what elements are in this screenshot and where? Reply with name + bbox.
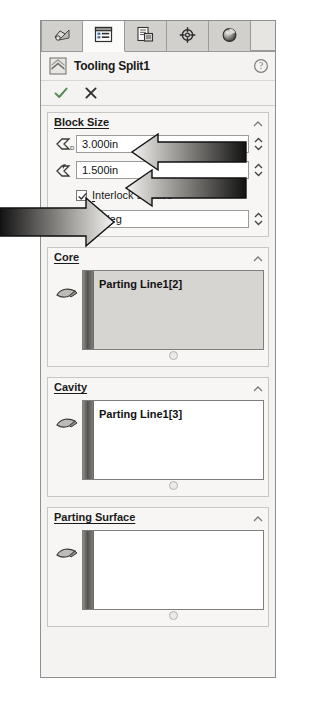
group-body-parting-surface [48, 526, 268, 626]
configuration-icon [136, 26, 155, 46]
group-core: Core Parting L [47, 247, 269, 367]
feature-tree-icon [52, 26, 72, 47]
cavity-selection-gutter [83, 401, 94, 479]
resize-dot-icon [169, 611, 178, 620]
block-depth-direction2-input[interactable]: 1.500in [76, 161, 249, 179]
parting-surface-selection-wrapper [82, 530, 264, 620]
cavity-selection-wrapper: Parting Line1[3] [82, 400, 264, 490]
core-selection-box[interactable]: Parting Line1[2] [82, 270, 264, 350]
parting-surface-selection-list[interactable] [94, 531, 263, 609]
depth-d2-icon [52, 160, 76, 180]
group-body-core: Parting Line1[2] [48, 266, 268, 366]
group-title-cavity: Cavity [54, 381, 252, 393]
row-cavity-selection: Parting Line1[3] [52, 398, 264, 490]
surface-face-icon [52, 270, 82, 302]
group-body-cavity: Parting Line1[3] [48, 396, 268, 496]
row-interlock-draft-angle: 3.00deg [52, 208, 264, 230]
chevron-up-icon[interactable] [252, 511, 264, 523]
block-depth-direction1-input[interactable]: 3.000in [76, 135, 249, 153]
depth-d1-icon: D [52, 134, 76, 154]
row-parting-surface-selection [52, 528, 264, 620]
group-block-size: Block Size D 3.000in [47, 112, 269, 237]
group-title-core: Core [54, 251, 252, 263]
list-item[interactable]: Parting Line1[3] [99, 408, 182, 420]
help-icon[interactable]: ? [253, 58, 269, 74]
tab-strip-filler [251, 21, 275, 51]
group-header-core[interactable]: Core [48, 248, 268, 266]
block-depth-direction1-stepper[interactable] [252, 136, 264, 152]
cavity-selection-box[interactable]: Parting Line1[3] [82, 400, 264, 480]
row-interlock-surface[interactable]: Interlock surface [52, 185, 264, 205]
chevron-up-icon[interactable] [252, 251, 264, 263]
surface-face-icon [52, 530, 82, 562]
parting-surface-selection-gutter [83, 531, 94, 609]
group-header-parting-surface[interactable]: Parting Surface [48, 508, 268, 526]
property-list-icon [94, 26, 113, 46]
core-selection-wrapper: Parting Line1[2] [82, 270, 264, 360]
parting-surface-resize-grip[interactable] [82, 610, 264, 620]
svg-text:?: ? [259, 61, 263, 71]
interlock-surface-label-rest: nterlock surface [95, 189, 173, 201]
tab-dimxpert-manager[interactable] [167, 21, 209, 51]
dimxpert-target-icon [178, 26, 197, 47]
interlock-surface-label: Interlock surface [92, 189, 173, 201]
list-item[interactable]: Parting Line1[2] [99, 278, 182, 290]
draft-angle-icon [52, 209, 76, 229]
tab-property-manager[interactable] [83, 21, 125, 52]
core-selection-gutter [83, 271, 94, 349]
tab-configuration-manager[interactable] [125, 21, 167, 51]
cancel-button[interactable] [83, 85, 99, 101]
group-header-cavity[interactable]: Cavity [48, 378, 268, 396]
core-selection-list[interactable]: Parting Line1[2] [94, 271, 263, 349]
resize-dot-icon [169, 351, 178, 360]
group-header-block-size[interactable]: Block Size [48, 113, 268, 131]
interlock-surface-checkbox[interactable] [76, 190, 87, 201]
chevron-up-icon[interactable] [252, 381, 264, 393]
row-block-depth-direction1: D 3.000in [52, 133, 264, 155]
group-parting-surface: Parting Surface [47, 507, 269, 627]
group-title-parting-surface: Parting Surface [54, 511, 252, 523]
chevron-up-icon[interactable] [252, 116, 264, 128]
manager-tab-strip [41, 21, 275, 52]
tab-feature-manager-tree[interactable] [41, 21, 83, 51]
resize-dot-icon [169, 481, 178, 490]
parting-surface-selection-box[interactable] [82, 530, 264, 610]
cavity-resize-grip[interactable] [82, 480, 264, 490]
interlock-draft-angle-stepper[interactable] [252, 211, 264, 227]
cavity-selection-list[interactable]: Parting Line1[3] [94, 401, 263, 479]
svg-text:D: D [70, 145, 75, 151]
appearances-sphere-icon [220, 26, 239, 47]
row-core-selection: Parting Line1[2] [52, 268, 264, 360]
group-title-block-size: Block Size [54, 116, 252, 128]
group-cavity: Cavity Parting [47, 377, 269, 497]
group-body-block-size: D 3.000in [48, 131, 268, 236]
page-title: Tooling Split1 [74, 59, 253, 73]
interlock-draft-angle-input[interactable]: 3.00deg [76, 210, 249, 228]
property-manager-panel: Tooling Split1 ? Block Size [40, 20, 276, 678]
surface-face-icon [52, 400, 82, 432]
core-resize-grip[interactable] [82, 350, 264, 360]
row-block-depth-direction2: 1.500in [52, 159, 264, 181]
confirm-bar [41, 81, 275, 106]
tooling-split-icon [49, 57, 67, 75]
tab-appearances-manager[interactable] [209, 21, 251, 51]
block-depth-direction2-stepper[interactable] [252, 162, 264, 178]
panel-title-bar: Tooling Split1 ? [41, 52, 275, 81]
accept-button[interactable] [53, 85, 69, 101]
